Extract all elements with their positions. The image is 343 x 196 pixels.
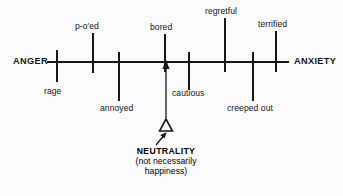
emotion-spectrum-diagram: ANGER ANXIETY p-o'ed bored regretful ter… [0,0,343,196]
tick-label-poed: p-o'ed [75,22,99,31]
neutrality-note: NEUTRALITY (not necessarily happiness) [88,146,244,176]
tick-label-bored: bored [150,23,172,32]
neutrality-note-line-3: happiness) [88,166,244,176]
neutrality-note-line-2: (not necessarily [88,156,244,166]
neutrality-note-line-1: NEUTRALITY [88,146,244,156]
note-callout-arrow-head [160,132,166,138]
tick-label-creeped-out: creeped out [227,104,273,113]
tick-label-terrified: terrified [258,20,287,29]
tick-label-rage: rage [44,87,61,96]
tick-label-annoyed: annoyed [100,104,133,113]
tick-label-regretful: regretful [205,7,237,16]
axis-right-pole-label: ANXIETY [294,57,336,67]
tick-label-cautious: cautious [172,89,204,98]
neutrality-triangle-icon [160,119,173,131]
axis-left-pole-label: ANGER [13,57,48,67]
